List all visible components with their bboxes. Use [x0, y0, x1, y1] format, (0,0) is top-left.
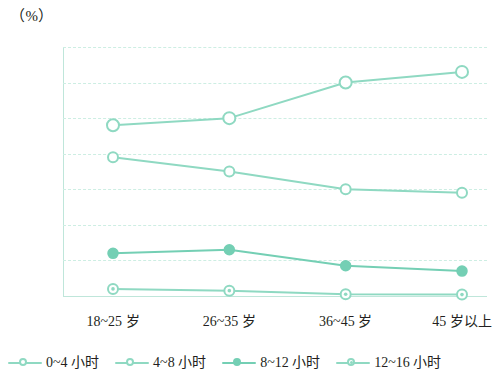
legend-marker-icon: [222, 357, 256, 369]
legend-label: 8~12 小时: [260, 356, 320, 370]
series-1: [108, 152, 467, 198]
series-line: [113, 72, 462, 125]
data-point: [108, 152, 118, 162]
series-line: [113, 250, 462, 271]
series-line: [113, 289, 462, 295]
legend-item-3[interactable]: 8~12 小时: [222, 356, 320, 370]
legend-item-1[interactable]: 0~4 小时: [8, 356, 99, 370]
legend-label: 4~8 小时: [153, 356, 206, 370]
data-point: [108, 248, 118, 258]
data-point-core: [228, 289, 232, 293]
data-point: [457, 266, 467, 276]
data-point: [341, 184, 351, 194]
data-point: [457, 188, 467, 198]
data-point: [224, 245, 234, 255]
series-line: [113, 157, 462, 193]
data-point-core: [460, 293, 464, 297]
data-point: [456, 66, 468, 78]
line-chart: （%） 706050403020100 18~25 岁26~35 岁36~45 …: [0, 0, 492, 375]
data-point-core: [344, 292, 348, 296]
legend-item-4[interactable]: 12~16 小时: [336, 356, 441, 370]
series-2: [107, 66, 468, 131]
legend-label: 12~16 小时: [374, 356, 441, 370]
series-3: [108, 245, 467, 276]
legend-label: 0~4 小时: [46, 356, 99, 370]
series-layer: [0, 0, 492, 375]
data-point: [340, 77, 352, 89]
legend-marker-icon: [115, 357, 149, 369]
series-4: [108, 284, 467, 300]
legend-item-2[interactable]: 4~8 小时: [115, 356, 206, 370]
legend-marker-icon: [336, 357, 370, 369]
data-point: [224, 167, 234, 177]
data-point: [341, 261, 351, 271]
legend-marker-icon: [8, 357, 42, 369]
data-point-core: [111, 287, 115, 291]
data-point: [223, 112, 235, 124]
legend: 0~4 小时4~8 小时8~12 小时12~16 小时: [0, 350, 492, 375]
data-point: [107, 119, 119, 131]
